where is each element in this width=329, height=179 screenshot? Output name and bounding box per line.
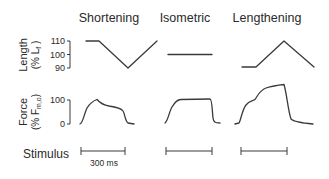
length-trace-lengthening	[242, 41, 314, 67]
muscle-contraction-figure: Shortening Isometric Lengthening Length …	[0, 0, 329, 179]
force-trace-lengthening	[235, 85, 313, 125]
force-axis-title: Force	[17, 98, 29, 126]
condition-label-isometric: Isometric	[160, 11, 211, 25]
stimulus-bar-lengthening	[241, 147, 287, 155]
condition-label-shortening: Shortening	[79, 11, 140, 25]
scale-bar-label: 300 ms	[90, 158, 118, 168]
length-trace-shortening	[86, 41, 157, 68]
force-axis	[67, 100, 70, 124]
stimulus-bar-isometric	[166, 147, 212, 155]
stimulus-bar-shortening	[81, 147, 125, 155]
stimulus-label: Stimulus	[23, 147, 69, 161]
force-axis-unit-text: (% Fm,o)	[30, 94, 42, 130]
force-trace-isometric	[165, 99, 220, 123]
length-tick-100: 100	[50, 50, 65, 60]
length-axis	[67, 41, 70, 68]
length-tick-110: 110	[51, 36, 65, 46]
force-axis-label: Force	[17, 98, 29, 126]
length-axis-unit-text: (% Lf )	[30, 41, 42, 70]
force-axis-unit: (% Fm,o)	[30, 94, 42, 130]
force-tick-0: 0	[60, 119, 65, 129]
force-tick-100: 100	[50, 95, 65, 105]
length-axis-title: Length	[17, 38, 29, 72]
length-tick-90: 90	[55, 63, 65, 73]
length-axis-unit: (% Lf )	[30, 41, 42, 70]
length-axis-label: Length	[17, 38, 29, 72]
force-trace-shortening	[80, 100, 134, 125]
condition-label-lengthening: Lengthening	[233, 11, 302, 25]
